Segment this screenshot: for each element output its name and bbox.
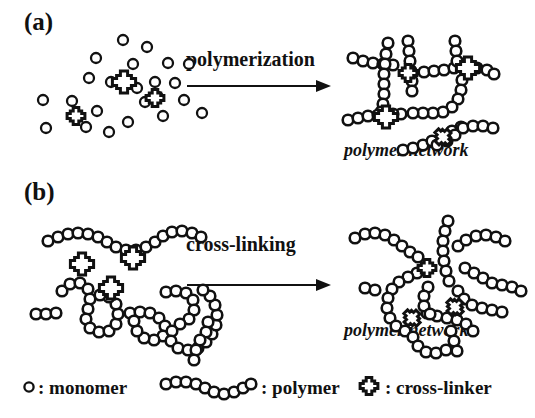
chain-bn-3 (438, 216, 455, 287)
cross-linker-b-net-1 (418, 260, 436, 277)
cross-linker-b-3 (99, 277, 122, 299)
panel-label-a: (a) (24, 8, 53, 36)
chain-b-1 (43, 226, 207, 256)
legend-circle-icon (24, 382, 33, 391)
cross-linker-b-net-3 (443, 295, 467, 319)
arrow-polymerization (187, 80, 331, 92)
chain-b-3 (57, 278, 124, 338)
caption-polymer-network-b: polymer network (344, 320, 469, 341)
chain-bn-10 (419, 282, 436, 320)
cross-linker-a-net-2 (456, 57, 479, 79)
cross-linker-a-1 (112, 71, 135, 93)
chain-b-2 (31, 308, 62, 320)
chain-b-4 (125, 307, 171, 346)
chain-a-6 (472, 63, 500, 80)
cross-linker-b-1 (70, 253, 93, 275)
chain-bn-5 (460, 263, 527, 297)
monomer-cloud-a (38, 35, 207, 137)
chain-a-7 (343, 109, 407, 126)
cross-linker-b-2 (121, 247, 144, 269)
chain-bn-4 (453, 230, 511, 252)
cross-linker-a-net-3 (374, 106, 397, 128)
arrow-label-polymerization: polymerization (186, 48, 315, 71)
chain-b-5 (161, 285, 223, 366)
cross-linker-a-2 (146, 90, 164, 107)
legend-label-polymer: : polymer (261, 377, 340, 399)
chain-a-5 (408, 36, 468, 119)
panel-a-reactants (38, 35, 207, 137)
figure-canvas: (a) (b) polymerization cross-linking pol… (0, 0, 535, 418)
legend-label-monomer: : monomer (38, 377, 127, 399)
panel-a-network (343, 36, 500, 156)
chain-a-3 (403, 36, 418, 97)
panel-label-b: (b) (24, 178, 55, 206)
legend-label-cross-linker: : cross-linker (385, 377, 492, 399)
arrow-cross-linking (187, 279, 331, 291)
chain-bn-0 (360, 283, 381, 296)
chain-bn-6 (453, 286, 508, 318)
caption-polymer-network-a: polymer network (344, 140, 469, 161)
chain-a-1 (348, 53, 399, 71)
chain-a-2 (376, 38, 394, 118)
chain-bn-1 (350, 228, 424, 263)
chain-a-4 (419, 59, 469, 78)
legend-cross-icon (360, 378, 378, 395)
legend-bead-chain-icon (161, 377, 257, 400)
arrow-label-cross-linking: cross-linking (186, 233, 296, 256)
cross-linker-a-3 (67, 108, 85, 125)
cross-linker-a-net-1 (399, 65, 417, 82)
